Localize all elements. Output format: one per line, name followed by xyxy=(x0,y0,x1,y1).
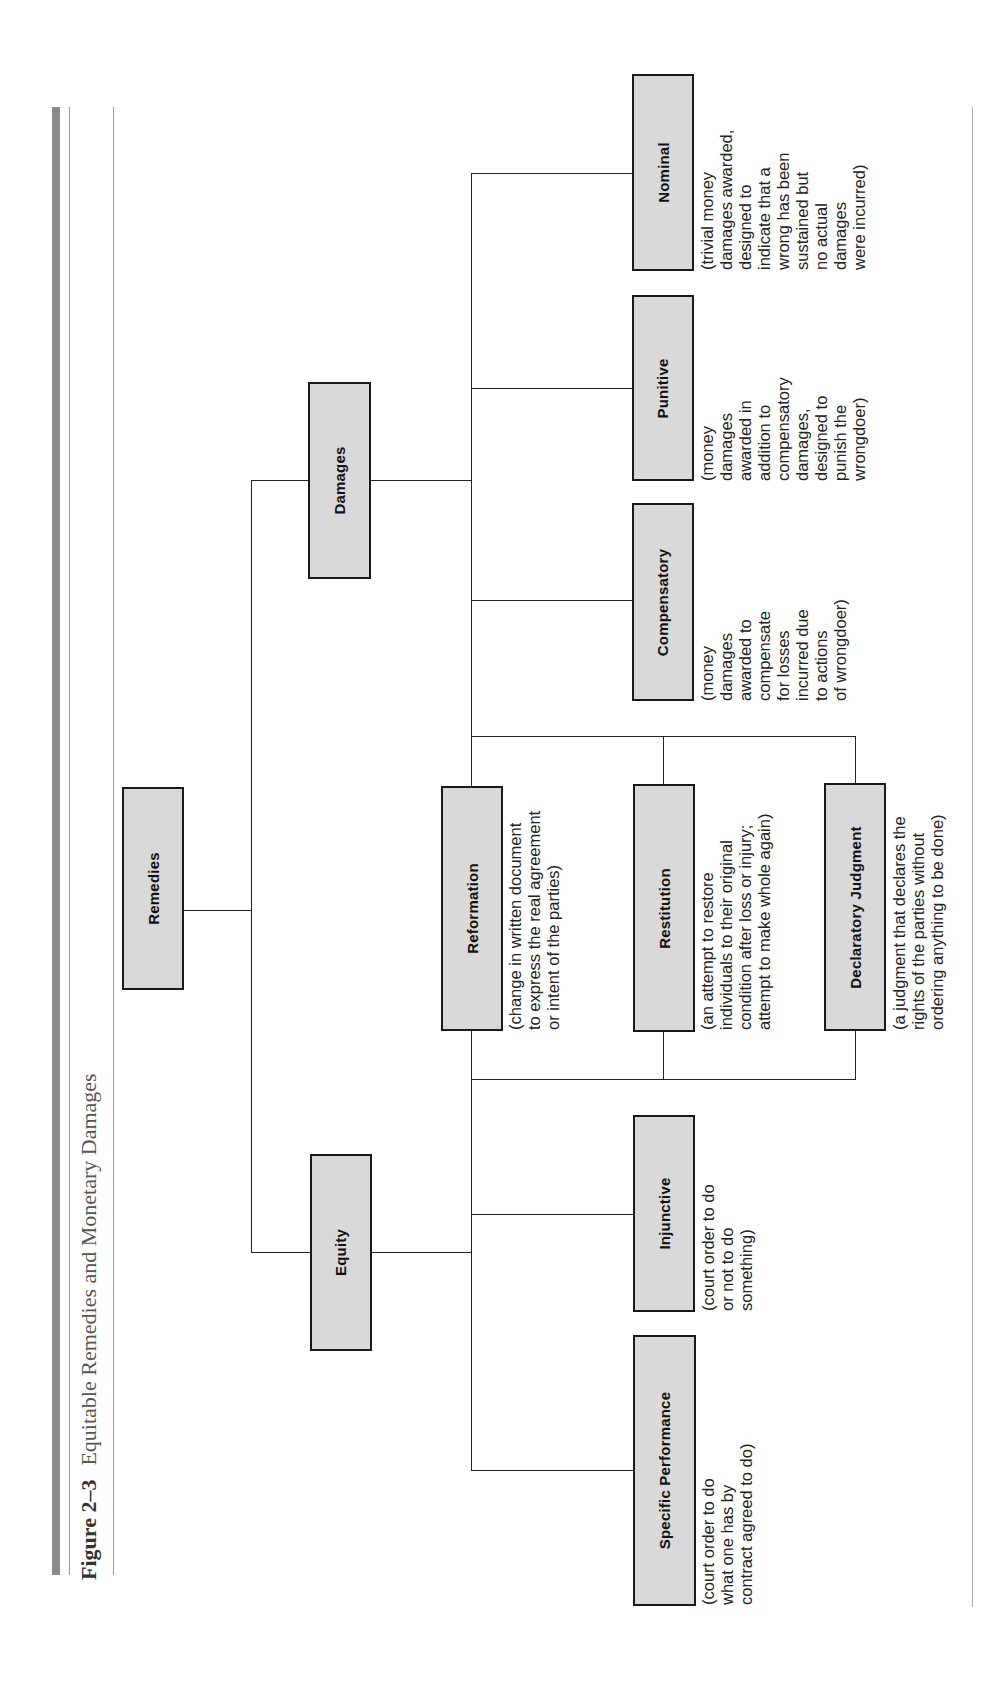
connector-nominal xyxy=(471,173,632,174)
node-nominal: Nominal xyxy=(632,74,694,271)
connector-remedies xyxy=(183,910,252,911)
node-damages: Damages xyxy=(308,382,371,579)
connector-to-damages xyxy=(251,480,309,481)
node-label: Reformation xyxy=(464,863,481,954)
connector-declaratory-top xyxy=(855,736,856,784)
connector-compensatory xyxy=(471,600,632,601)
description-nominal: (trivial money damages awarded, designed… xyxy=(698,130,869,270)
node-label: Restitution xyxy=(656,868,673,949)
node-reformation: Reformation xyxy=(441,786,503,1031)
node-label: Specific Performance xyxy=(656,1392,673,1549)
connector-restitution-bottom xyxy=(663,1031,664,1079)
description-compensatory: (money damages awarded to compensate for… xyxy=(698,599,850,701)
figure-caption: Figure 2–3Equitable Remedies and Monetar… xyxy=(76,1073,102,1580)
node-restitution: Restitution xyxy=(633,784,695,1032)
node-punitive: Punitive xyxy=(632,295,694,481)
node-label: Injunctive xyxy=(656,1177,673,1249)
node-label: Declaratory Judgment xyxy=(847,826,864,988)
node-injunctive: Injunctive xyxy=(633,1115,695,1312)
connector-to-equity xyxy=(251,1252,311,1253)
node-declaratory-judgment: Declaratory Judgment xyxy=(824,783,886,1031)
node-equity: Equity xyxy=(310,1154,372,1351)
description-declaratory-judgment: (a judgment that declares the rights of … xyxy=(890,814,947,1030)
caption-rule-right xyxy=(113,107,114,1575)
node-label: Damages xyxy=(331,446,348,514)
node-label: Compensatory xyxy=(655,548,672,655)
figure-number: Figure 2–3 xyxy=(76,1480,101,1580)
description-restitution: (an attempt to restore individuals to th… xyxy=(698,814,774,1030)
caption-rule-left xyxy=(69,107,70,1575)
connector-damages-bus xyxy=(370,480,471,481)
description-reformation: (change in written document to express t… xyxy=(506,811,563,1030)
connector-equity-bus xyxy=(371,1252,471,1253)
figure-title: Equitable Remedies and Monetary Damages xyxy=(76,1073,101,1465)
connector-specific-performance xyxy=(471,1470,633,1471)
connector-equity-group-bottom xyxy=(471,1079,856,1080)
connector-declaratory-bottom xyxy=(855,1030,856,1079)
node-label: Nominal xyxy=(655,142,672,203)
description-injunctive: (court order to do or not to do somethin… xyxy=(699,1184,756,1311)
connector-restitution-top xyxy=(663,736,664,785)
node-compensatory: Compensatory xyxy=(632,503,694,701)
node-label: Punitive xyxy=(655,358,672,418)
connector-punitive xyxy=(471,388,632,389)
accent-bar xyxy=(52,107,60,1575)
description-specific-performance: (court order to do what one has by contr… xyxy=(699,1444,756,1605)
node-specific-performance: Specific Performance xyxy=(633,1335,696,1606)
connector-injunctive xyxy=(471,1214,633,1215)
node-label: Remedies xyxy=(145,852,162,924)
page-rule-right xyxy=(972,107,973,1607)
node-remedies: Remedies xyxy=(122,787,184,990)
connector-root-vertical xyxy=(251,480,252,1253)
description-punitive: (money damages awarded in addition to co… xyxy=(698,377,869,481)
node-label: Equity xyxy=(332,1229,349,1276)
